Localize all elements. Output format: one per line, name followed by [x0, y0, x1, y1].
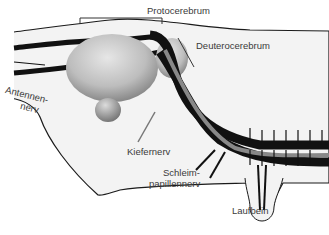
label-laufbein: Laufbein: [232, 205, 268, 216]
label-deuterocerebrum: Deuterocerebrum: [196, 40, 270, 51]
label-schleimpapillennerv-line2: papillennerv: [149, 178, 200, 189]
nervous-system-illustration: [0, 0, 329, 235]
label-schleimpapillennerv-line1: Schleim-: [163, 167, 200, 178]
label-kiefernerv: Kiefernerv: [127, 146, 170, 157]
diagram-container: Protocerebrum Deuterocerebrum Antennen- …: [0, 0, 329, 235]
label-protocerebrum: Protocerebrum: [147, 5, 210, 16]
protocerebrum-ganglion: [66, 34, 158, 102]
